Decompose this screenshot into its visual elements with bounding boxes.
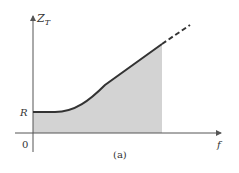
impedance-vs-frequency-diagram: ZT R 0 f (a) (0, 0, 239, 173)
curve-dashed-extension (162, 25, 190, 44)
figure-caption: (a) (113, 149, 127, 160)
y-axis-label: ZT (36, 12, 51, 27)
origin-label: 0 (22, 139, 28, 150)
x-axis-label: f (216, 139, 223, 150)
y-tick-label-r: R (19, 107, 28, 118)
